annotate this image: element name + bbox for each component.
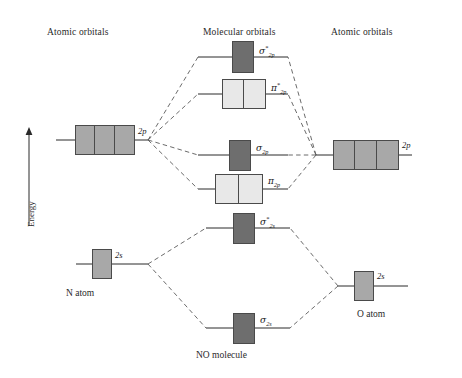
level-lines-left — [56, 140, 148, 264]
caption-o-atom: O atom — [357, 309, 385, 319]
orbital-box-pi-2p — [215, 174, 263, 204]
label-n-2s-text: 2s — [115, 250, 123, 260]
label-sigma-star-2p: σ*2p — [259, 44, 275, 58]
orbital-cell — [355, 272, 373, 300]
orbital-box-sigma-2s — [233, 313, 255, 344]
label-sigma-2s-sub: 2s — [266, 320, 272, 327]
mo-energy-diagram: Atomic orbitals Molecular orbitals Atomi… — [0, 0, 462, 378]
orbital-cell — [377, 141, 398, 169]
label-pi-star-2p-sub: 2p — [280, 88, 286, 95]
label-o-2s: 2s — [377, 271, 385, 281]
orbital-cell — [233, 42, 253, 72]
orbital-cell — [334, 141, 355, 169]
label-pi-2p: π2p — [268, 176, 280, 188]
correlation-lines-left — [148, 57, 206, 328]
caption-n-atom: N atom — [66, 288, 94, 298]
label-sigma-star-2p-sub: 2p — [268, 51, 274, 58]
orbital-cell — [230, 141, 250, 170]
orbital-cell — [234, 314, 254, 343]
orbital-cell — [355, 141, 376, 169]
label-n-2p-text: 2p — [138, 126, 147, 136]
label-n-2s: 2s — [115, 250, 123, 260]
orbital-cell — [115, 126, 134, 154]
orbital-cell — [95, 126, 114, 154]
label-sigma-star-2s: σ*2s — [260, 215, 275, 229]
orbital-box-pi-star-2p — [222, 79, 266, 109]
orbital-cell — [216, 175, 239, 203]
orbital-box-sigma-star-2p — [232, 41, 254, 73]
label-sigma-2p-sub: 2p — [262, 148, 268, 155]
orbital-box-sigma-2p — [229, 140, 251, 171]
orbital-box-o-2s — [354, 271, 374, 301]
label-o-2s-text: 2s — [377, 271, 385, 281]
orbital-box-sigma-star-2s — [233, 213, 255, 244]
label-o-2p: 2p — [402, 140, 411, 150]
orbital-cell — [234, 214, 254, 243]
label-pi-star-2p: π*2p — [271, 81, 286, 95]
orbital-cell — [93, 250, 111, 278]
orbital-cell — [223, 80, 244, 108]
level-lines-right — [316, 155, 412, 286]
orbital-box-n-2s — [92, 249, 112, 279]
label-sigma-2s: σ2s — [260, 315, 272, 327]
caption-no-molecule: NO molecule — [196, 350, 247, 360]
label-sigma-star-2s-sub: 2s — [269, 222, 275, 229]
orbital-box-n-2p — [75, 125, 135, 155]
orbital-cell — [76, 126, 95, 154]
orbital-cell — [239, 175, 262, 203]
energy-axis-label: Energy — [26, 201, 36, 227]
orbital-box-o-2p — [333, 140, 399, 170]
label-sigma-2p: σ2p — [256, 143, 268, 155]
label-pi-2p-sub: 2p — [274, 181, 280, 188]
correlation-lines-right — [288, 57, 338, 328]
label-o-2p-text: 2p — [402, 140, 411, 150]
orbital-cell — [244, 80, 265, 108]
label-n-2p: 2p — [138, 126, 147, 136]
